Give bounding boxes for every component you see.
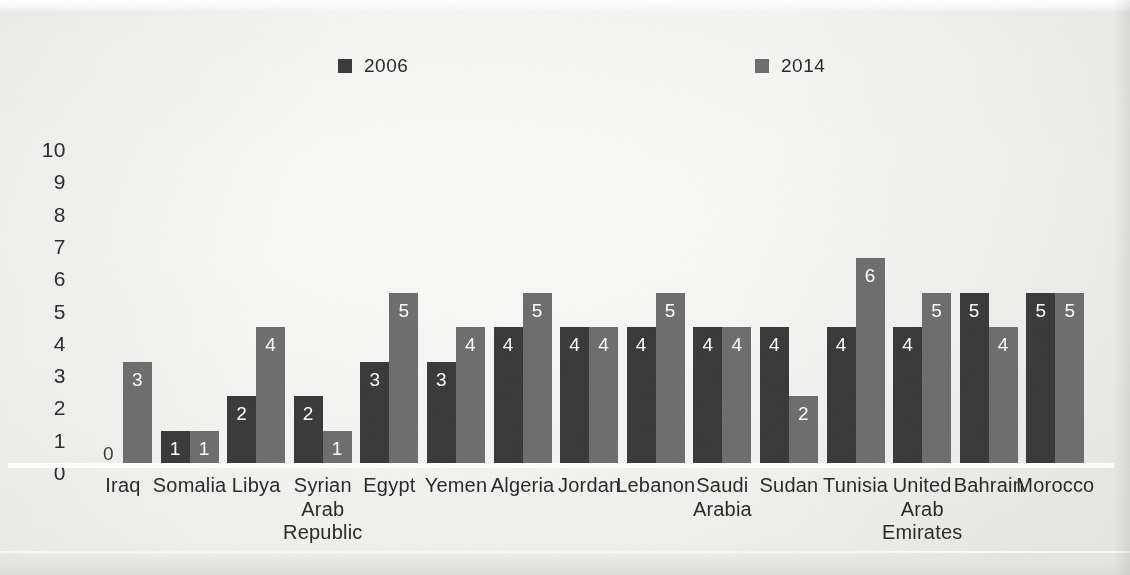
bar-group: 24: [227, 110, 285, 465]
bar: 5: [523, 293, 552, 466]
bar-value-label: 3: [427, 370, 456, 389]
x-axis-baseline: [8, 463, 1114, 467]
page-top-edge: [0, 0, 1130, 12]
bar-group: 45: [627, 110, 685, 465]
chart-page: 2006 2014 109876543210 03112421353445444…: [0, 0, 1130, 575]
x-axis-label-line: Emirates: [870, 521, 974, 545]
bar-value-label: 4: [989, 335, 1018, 354]
bar-value-label: 1: [190, 439, 219, 458]
plot-area: 031124213534454445444246455455: [66, 110, 1118, 465]
bar-value-label: 4: [256, 335, 285, 354]
bar: 5: [656, 293, 685, 466]
page-bottom-edge: [0, 553, 1130, 575]
bar-value-label: 5: [960, 301, 989, 320]
bar: 2: [294, 396, 323, 465]
x-axis-label-line: Arab: [870, 498, 974, 522]
bar: 4: [627, 327, 656, 465]
bar: 4: [256, 327, 285, 465]
x-axis-label-line: Arab: [271, 498, 375, 522]
bar-value-label: 4: [627, 335, 656, 354]
bar-value-label: 4: [827, 335, 856, 354]
bar: 5: [389, 293, 418, 466]
y-axis: 109876543210: [20, 126, 66, 476]
bar-value-label: 1: [161, 439, 190, 458]
bar-group: 35: [360, 110, 418, 465]
bar-value-label: 2: [789, 404, 818, 423]
bar: 2: [789, 396, 818, 465]
bar-value-label: 4: [693, 335, 722, 354]
bar-value-label: 0: [94, 444, 123, 463]
bar: 1: [190, 431, 219, 466]
bar-value-label: 6: [856, 266, 885, 285]
bar-group: 44: [693, 110, 751, 465]
bar-group: 34: [427, 110, 485, 465]
legend-entry-2014: 2014: [755, 56, 825, 75]
bar-group: 03: [94, 110, 152, 465]
bar-group: 44: [560, 110, 618, 465]
y-axis-tick: 9: [20, 171, 66, 192]
bar-value-label: 1: [323, 439, 352, 458]
bar-value-label: 5: [389, 301, 418, 320]
legend-swatch-2014: [755, 59, 769, 73]
y-axis-tick: 6: [20, 268, 66, 289]
bar-group: 21: [294, 110, 352, 465]
bar: 4: [456, 327, 485, 465]
bar: 4: [722, 327, 751, 465]
bar: 4: [494, 327, 523, 465]
y-axis-tick: 5: [20, 301, 66, 322]
bar: 4: [693, 327, 722, 465]
y-axis-tick: 8: [20, 204, 66, 225]
bar: 4: [827, 327, 856, 465]
bar: 2: [227, 396, 256, 465]
bar-value-label: 4: [893, 335, 922, 354]
y-axis-tick: 2: [20, 397, 66, 418]
bar-value-label: 5: [1055, 301, 1084, 320]
bar-value-label: 3: [123, 370, 152, 389]
bar: 5: [1055, 293, 1084, 466]
bar: 3: [360, 362, 389, 466]
bar: 1: [161, 431, 190, 466]
bar: 1: [323, 431, 352, 466]
bar-value-label: 4: [494, 335, 523, 354]
y-axis-tick: 1: [20, 430, 66, 451]
bar: 3: [427, 362, 456, 466]
y-axis-tick: 4: [20, 333, 66, 354]
bar-value-label: 5: [1026, 301, 1055, 320]
bar: 6: [856, 258, 885, 465]
bar-group: 42: [760, 110, 818, 465]
y-axis-tick: 7: [20, 236, 66, 257]
bar-value-label: 4: [722, 335, 751, 354]
x-axis-label: Morocco: [1003, 474, 1107, 498]
bar-group: 11: [161, 110, 219, 465]
bar-group: 45: [494, 110, 552, 465]
x-axis-label-line: Morocco: [1003, 474, 1107, 498]
bar: 4: [560, 327, 589, 465]
x-axis-label-line: Arabia: [670, 498, 774, 522]
bar: 5: [1026, 293, 1055, 466]
bar-value-label: 5: [922, 301, 951, 320]
bar-group: 46: [827, 110, 885, 465]
bar: 4: [989, 327, 1018, 465]
bar-value-label: 5: [656, 301, 685, 320]
bar-value-label: 2: [227, 404, 256, 423]
y-axis-tick: 3: [20, 365, 66, 386]
legend-label-2006: 2006: [364, 56, 408, 75]
bar-value-label: 4: [560, 335, 589, 354]
bar-group: 55: [1026, 110, 1084, 465]
bar: 3: [123, 362, 152, 466]
bar: 5: [960, 293, 989, 466]
bar: 4: [589, 327, 618, 465]
bar-value-label: 4: [589, 335, 618, 354]
bar: 5: [922, 293, 951, 466]
bar-value-label: 2: [294, 404, 323, 423]
legend-swatch-2006: [338, 59, 352, 73]
bar-value-label: 5: [523, 301, 552, 320]
y-axis-tick: 10: [20, 139, 66, 160]
legend-entry-2006: 2006: [338, 56, 408, 75]
bar-group: 45: [893, 110, 951, 465]
x-axis-label-line: Republic: [271, 521, 375, 545]
bar-group: 54: [960, 110, 1018, 465]
bar: 4: [760, 327, 789, 465]
bar-value-label: 4: [456, 335, 485, 354]
bar-value-label: 4: [760, 335, 789, 354]
